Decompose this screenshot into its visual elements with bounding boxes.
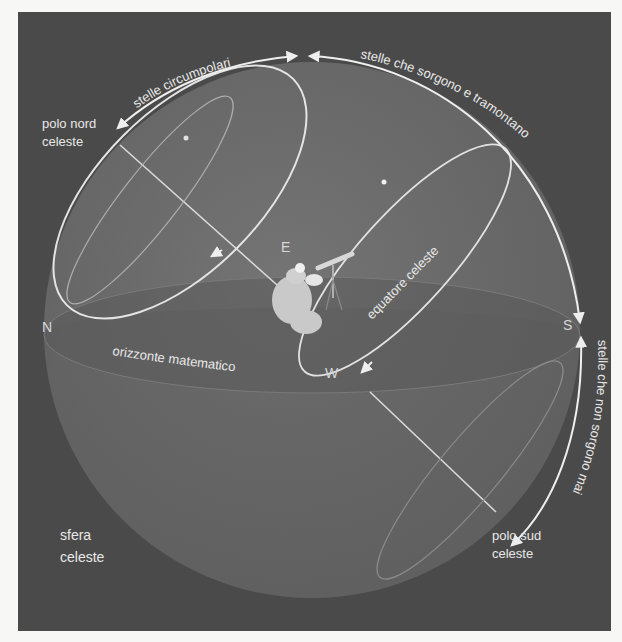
label-sfera-1: sfera [60, 527, 91, 543]
cardinal-west: W [325, 365, 339, 381]
star-dot [382, 180, 387, 185]
cardinal-south: S [563, 317, 572, 333]
label-polo-nord-2: celeste [42, 134, 83, 149]
cardinal-east: E [281, 239, 290, 255]
label-polo-nord-1: polo nord [42, 116, 96, 131]
celestial-sphere-diagram: stelle circumpolari stelle che sorgono e… [0, 0, 622, 642]
cardinal-north: N [42, 319, 52, 335]
label-polo-sud-1: polo sud [492, 528, 541, 543]
star-dot [184, 136, 189, 141]
label-sfera-2: celeste [60, 549, 105, 565]
label-polo-sud-2: celeste [492, 546, 533, 561]
diagram-canvas: stelle circumpolari stelle che sorgono e… [0, 0, 622, 642]
